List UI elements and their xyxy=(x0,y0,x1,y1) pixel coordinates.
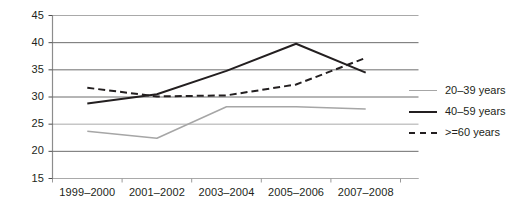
series-line-2 xyxy=(87,58,365,97)
y-tick-label: 35 xyxy=(18,64,44,75)
y-tick-label: 45 xyxy=(18,10,44,21)
x-axis-ticks xyxy=(53,179,401,183)
line-dashed-black-icon xyxy=(408,127,438,137)
x-tick-label: 2005–2006 xyxy=(261,187,331,198)
chart-legend: 20–39 years40–59 years>=60 years xyxy=(408,79,520,142)
x-tick-label: 2003–2004 xyxy=(192,187,262,198)
legend-item-label: 40–59 years xyxy=(438,105,506,117)
gridlines xyxy=(53,16,419,179)
x-tick-label: 1999–2000 xyxy=(53,187,123,198)
legend-item[interactable]: >=60 years xyxy=(408,121,520,142)
x-tick-label: 2007–2008 xyxy=(331,187,401,198)
y-tick-label: 20 xyxy=(18,145,44,156)
legend-item[interactable]: 20–39 years xyxy=(408,79,520,100)
series-line-0 xyxy=(87,107,365,139)
series-line-1 xyxy=(87,44,365,104)
y-tick-label: 30 xyxy=(18,91,44,102)
line-chart: 15202530354045 1999–20002001–20022003–20… xyxy=(0,0,521,214)
line-solid-gray-icon xyxy=(408,85,438,95)
y-tick-label: 25 xyxy=(18,118,44,129)
legend-item[interactable]: 40–59 years xyxy=(408,100,520,121)
y-tick-label: 15 xyxy=(18,173,44,184)
line-solid-black-icon xyxy=(408,106,438,116)
y-tick-label: 40 xyxy=(18,37,44,48)
legend-item-label: >=60 years xyxy=(438,126,500,138)
x-tick-label: 2001–2002 xyxy=(122,187,192,198)
legend-item-label: 20–39 years xyxy=(438,84,506,96)
